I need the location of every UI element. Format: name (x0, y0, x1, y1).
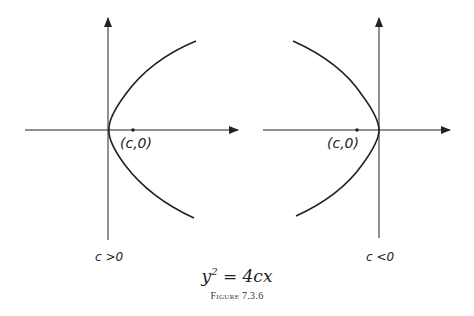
left-condition-label: c >0 (95, 250, 123, 264)
left-focus-point (131, 128, 135, 132)
left-point-label: (c,0) (120, 135, 152, 151)
right-condition-label: c <0 (366, 250, 394, 264)
right-panel: (c,0) c <0 (263, 18, 450, 264)
right-point-label: (c,0) (327, 135, 359, 151)
figure-caption: Figure 7.3.6 (0, 290, 474, 301)
left-panel: (c,0) c >0 (25, 18, 238, 264)
right-parabola (293, 41, 379, 216)
right-focus-point (355, 128, 359, 132)
equation-lhs: y (202, 266, 212, 286)
equation: y2 = 4cx (0, 266, 474, 286)
equation-rhs: = 4cx (218, 266, 273, 286)
